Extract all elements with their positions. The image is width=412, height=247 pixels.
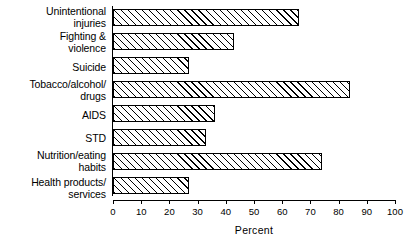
- x-ticklabel-70: 70: [297, 206, 323, 217]
- bar-fighting-violence: [113, 33, 234, 50]
- y-axis-label-health-products-services: Health products/ services: [0, 177, 106, 200]
- y-axis-label-unintentional-injuries: Unintentional injuries: [0, 6, 106, 29]
- y-axis-label-fighting-violence: Fighting & violence: [0, 31, 106, 54]
- x-axis-title: Percent: [113, 224, 395, 236]
- x-tick-30: [198, 200, 199, 204]
- bar-tobacco-alcohol-drugs: [113, 81, 350, 98]
- x-tick-20: [169, 200, 170, 204]
- y-axis-category-labels: Unintentional injuries Fighting & violen…: [0, 6, 110, 196]
- x-tick-0: [113, 200, 114, 204]
- x-ticklabel-10: 10: [128, 206, 154, 217]
- x-ticklabel-60: 60: [269, 206, 295, 217]
- x-tick-90: [367, 200, 368, 204]
- x-ticklabel-0: 0: [100, 206, 126, 217]
- x-tick-100: [395, 200, 396, 204]
- x-ticklabel-40: 40: [213, 206, 239, 217]
- x-tick-70: [310, 200, 311, 204]
- y-axis-label-std: STD: [0, 133, 106, 145]
- y-axis-label-aids: AIDS: [0, 110, 106, 122]
- x-tick-50: [254, 200, 255, 204]
- y-axis-label-tobacco-alcohol-drugs: Tobacco/alcohol/ drugs: [0, 79, 106, 102]
- bar-aids: [113, 105, 215, 122]
- x-tick-60: [282, 200, 283, 204]
- bar-unintentional-injuries: [113, 9, 299, 26]
- bar-suicide: [113, 57, 189, 74]
- bar-std: [113, 129, 206, 146]
- bar-nutrition-eating-habits: [113, 153, 322, 170]
- bar-chart: Unintentional injuries Fighting & violen…: [0, 0, 412, 247]
- x-ticklabel-90: 90: [354, 206, 380, 217]
- x-tick-10: [141, 200, 142, 204]
- y-axis-label-suicide: Suicide: [0, 62, 106, 74]
- x-tick-80: [339, 200, 340, 204]
- y-axis-label-nutrition-eating-habits: Nutrition/eating habits: [0, 150, 106, 173]
- x-tick-40: [226, 200, 227, 204]
- bar-health-products-services: [113, 177, 189, 194]
- x-ticklabel-50: 50: [241, 206, 267, 217]
- plot-area: [113, 6, 395, 196]
- x-ticklabel-80: 80: [326, 206, 352, 217]
- x-ticklabel-30: 30: [185, 206, 211, 217]
- x-ticklabel-100: 100: [382, 206, 408, 217]
- x-ticklabel-20: 20: [156, 206, 182, 217]
